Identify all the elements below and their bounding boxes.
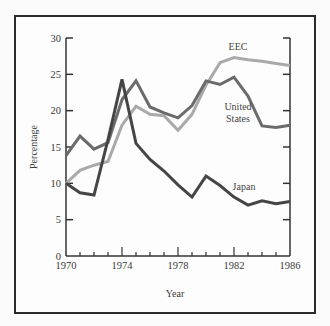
y-tick-label: 10 bbox=[51, 178, 62, 189]
y-tick-label: 15 bbox=[51, 142, 62, 153]
series-label-eec: EEC bbox=[229, 41, 248, 52]
y-tick-label: 20 bbox=[51, 105, 62, 116]
x-tick-label: 1978 bbox=[168, 260, 189, 271]
x-tick-label: 1974 bbox=[112, 260, 134, 271]
x-axis-title: Year bbox=[166, 288, 185, 299]
line-chart: 051015202530 19701974197819821986 EEC Un… bbox=[0, 0, 330, 326]
x-tick-label: 1982 bbox=[224, 260, 245, 271]
x-tick-label: 1970 bbox=[56, 260, 77, 271]
series-label-united-states-line1: United bbox=[224, 101, 251, 112]
y-tick-label: 25 bbox=[51, 69, 62, 80]
series-label-united-states-line2: States bbox=[226, 113, 250, 124]
y-axis-title: Percentage bbox=[28, 125, 39, 169]
series-label-japan: Japan bbox=[233, 181, 256, 192]
y-tick-label: 5 bbox=[56, 214, 61, 225]
x-tick-label: 1986 bbox=[280, 260, 301, 271]
y-tick-label: 30 bbox=[51, 33, 62, 44]
